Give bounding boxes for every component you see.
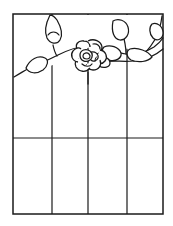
leaf-icon-far-right <box>150 23 163 39</box>
artwork-canvas: Stained Glass Rose Vine Panel black and … <box>0 0 173 226</box>
stained-glass-pattern-drawing <box>0 0 173 226</box>
foliage-overlay-group <box>14 15 163 84</box>
leaf-icon-upper-right <box>112 20 128 40</box>
